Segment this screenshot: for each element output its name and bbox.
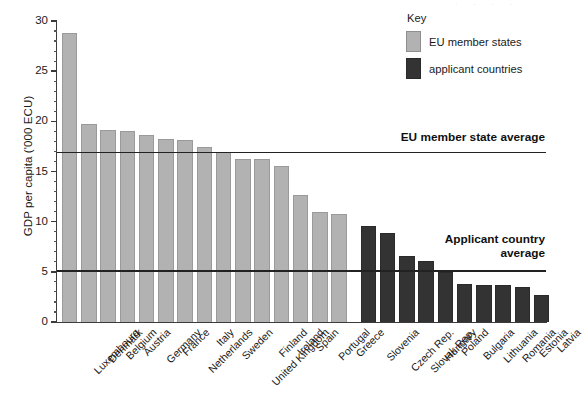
- bar-poland: [438, 272, 453, 322]
- bar-luxembourg: [62, 33, 77, 322]
- legend-title: Key: [406, 12, 553, 24]
- bar-belgium: [100, 130, 115, 322]
- y-tick-label: 15: [35, 166, 48, 178]
- bar-bulgaria: [457, 284, 472, 322]
- y-tick-label: 0: [42, 316, 48, 328]
- y-axis-title: GDP per capita ('000 ECU): [22, 46, 34, 286]
- bar-estonia: [515, 287, 530, 322]
- bar-france: [158, 139, 173, 322]
- legend-label-eu: EU member states: [429, 36, 522, 48]
- reference-line-app: [57, 270, 546, 272]
- bar-germany: [139, 135, 154, 322]
- bar-latvia: [534, 295, 549, 322]
- reference-line-label-app: Applicant country average: [395, 233, 545, 261]
- bar-united-kingdom: [235, 159, 250, 322]
- y-tick-label: 10: [35, 216, 48, 228]
- legend-item-eu: EU member states: [406, 31, 553, 52]
- bar-slovak-rep: [399, 256, 414, 322]
- y-tick-label: 30: [35, 15, 48, 27]
- bar-portugal: [312, 212, 327, 322]
- bar-spain: [293, 195, 308, 322]
- y-tick-label: 25: [35, 65, 48, 77]
- legend-swatch-eu-icon: [406, 31, 421, 52]
- legend-label-applicant: applicant countries: [429, 63, 522, 75]
- bar-ireland: [274, 166, 289, 322]
- bar-czech-rep: [380, 233, 395, 322]
- legend-swatch-applicant-icon: [406, 58, 421, 79]
- bar-greece: [331, 214, 346, 322]
- bar-denmark: [81, 124, 96, 322]
- scan-artifact: · · · ·: [455, 1, 519, 8]
- bar-slovenia: [361, 226, 376, 322]
- bar-italy: [197, 147, 212, 322]
- x-axis-labels: LuxembourgDenmarkBelgiumAustriaGermanyFr…: [57, 322, 546, 401]
- y-tick-label: 20: [35, 116, 48, 128]
- y-tick-label: 5: [42, 266, 48, 278]
- reference-line-label-eu: EU member state average: [401, 131, 545, 145]
- bar-netherlands: [177, 140, 192, 322]
- chart-legend: Key EU member states applicant countries: [406, 12, 553, 85]
- reference-line-eu: [57, 152, 546, 154]
- bar-sweden: [216, 152, 231, 322]
- bar-austria: [120, 131, 135, 322]
- bar-finland: [254, 159, 269, 322]
- bar-lithuania: [476, 285, 491, 322]
- bar-romania: [495, 285, 510, 322]
- legend-item-applicant: applicant countries: [406, 58, 553, 79]
